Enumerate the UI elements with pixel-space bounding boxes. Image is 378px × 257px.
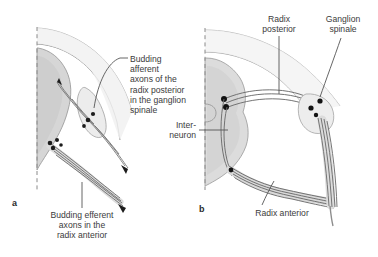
panel-letter-a: a xyxy=(12,198,17,208)
panel-b-ganglion-cell-body xyxy=(308,105,313,110)
panel-a-motor-cell-body xyxy=(55,138,59,142)
panel-letter-b: b xyxy=(199,204,205,214)
panel-a-ganglion-cell-body xyxy=(86,118,91,123)
panel-a-motor-cell-body xyxy=(48,141,53,146)
panel-b-ganglion-cell-body xyxy=(314,113,318,117)
panel-a-motor-cell-body xyxy=(59,143,63,147)
panel-b-motor-cell-body xyxy=(229,168,234,173)
panel-a-motor-cell-body xyxy=(51,146,55,150)
panel-b-interneuron-cell-body xyxy=(223,104,229,110)
label-interneuron: Inter- neuron xyxy=(148,120,196,140)
panel-b-ganglion-cell-body xyxy=(317,98,322,103)
panel-a-ganglion-cell-body xyxy=(91,112,95,116)
label-radix-posterior: Radix posterior xyxy=(248,14,310,34)
label-radix-anterior: Radix anterior xyxy=(237,208,327,218)
label-budding-afferent-axons: Budding afferent axons of the radix post… xyxy=(130,54,190,115)
label-ganglion-spinale: Ganglion spinale xyxy=(313,14,373,34)
label-budding-efferent-axons: Budding efferent axons in the radix ante… xyxy=(22,210,142,241)
panel-a-ganglion-cell-body xyxy=(82,124,86,128)
